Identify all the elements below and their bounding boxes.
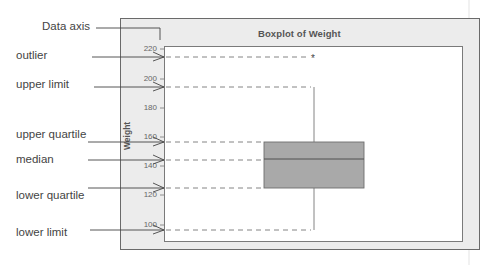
outlier-marker: *: [311, 53, 315, 64]
y-axis-ticks: [160, 49, 164, 225]
boxplot-graphics: *: [0, 0, 494, 265]
annotation-arrows: [88, 52, 164, 234]
iqr-box: [264, 142, 364, 188]
data-axis-leader-line: [96, 28, 160, 40]
